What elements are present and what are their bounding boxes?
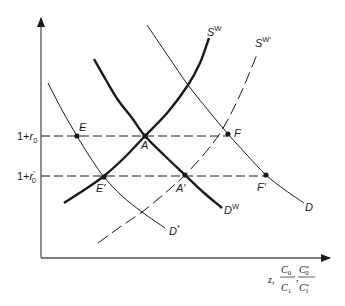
point-label-Aprime: A′ [175,182,186,194]
point-label-F: F [234,127,242,139]
point-Eprime [101,174,106,179]
point-Aprime [182,172,187,177]
x-axis-label: z, C0 C1 , C*0 C*1 [267,264,315,295]
point-label-A: A [140,139,148,151]
x-label-frac1-den: C1 [281,282,292,295]
curve-DW [94,59,222,208]
point-Fprime [263,172,268,177]
axes [41,18,330,258]
point-E [74,133,79,138]
x-label-frac2-num: C*0 [299,264,310,277]
curve-Dstar [48,83,165,228]
x-label-frac1-num: C0 [281,264,292,277]
point-label-E: E [79,121,87,133]
x-label-z: z, [267,274,274,285]
point-label-Fprime: F′ [257,181,267,193]
curves: SWDWD*DSW′ [48,24,313,243]
point-F [225,131,230,136]
point-A [142,133,147,138]
rate-label-r0: 1+r0 [17,130,37,145]
curve-label-DW: DW [224,202,240,216]
curve-label-D: D [305,201,313,213]
point-label-Eprime: E′ [96,182,106,194]
curve-label-Dstar: D* [169,223,180,237]
rate-label-r0-prime: 1+r′0 [17,169,36,185]
curve-SWprime [98,52,258,243]
curve-label-SW: SW [207,24,222,38]
interest-rate-lines [41,136,266,176]
x-label-frac2-den: C*1 [299,282,310,295]
curve-label-SWprime: SW′ [255,35,271,49]
supply-demand-diagram: SWDWD*DSW′ EAFE′A′F′ 1+r0 1+r′0 z, C0 C1… [0,0,345,306]
equilibrium-points: EAFE′A′F′ [74,121,268,194]
